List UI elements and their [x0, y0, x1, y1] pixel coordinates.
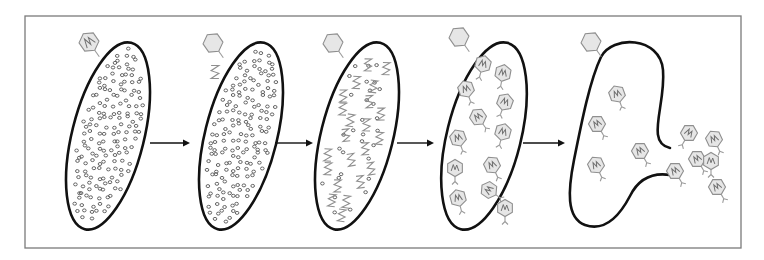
- lytic-cycle-diagram: Phage attaches to bacterial cellPhage DN…: [0, 0, 764, 260]
